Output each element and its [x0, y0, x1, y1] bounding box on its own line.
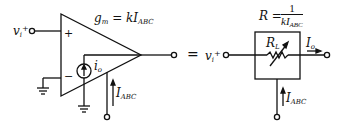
r-equation-lhs: R =	[259, 10, 282, 22]
input-label-left: vi+	[13, 25, 29, 39]
input-label-right: vi+	[205, 50, 221, 64]
input-terminal	[29, 28, 34, 33]
output-current-label: Io	[306, 37, 315, 51]
output-terminal-left	[171, 52, 176, 57]
gm-equation: gm = kIABC	[94, 12, 154, 26]
bias-label-left: IABC	[116, 87, 136, 101]
current-source-label: io	[94, 60, 102, 74]
equals-sign: =	[187, 46, 199, 62]
resistor-label: RL	[266, 37, 280, 51]
minus-sign: −	[64, 71, 73, 82]
bias-label-right: IABC	[286, 92, 306, 106]
output-terminal-right	[324, 52, 329, 57]
input-terminal-right	[223, 52, 228, 57]
plus-sign: +	[64, 28, 73, 39]
ota-equivalent-diagram: vi+ + − gm = kIABC io IABC = vi+ R = 1 k…	[0, 0, 345, 129]
r-equation-fraction: 1 kIABC	[281, 2, 303, 29]
bias-terminal-left	[104, 114, 109, 119]
bias-terminal-right	[274, 114, 279, 119]
